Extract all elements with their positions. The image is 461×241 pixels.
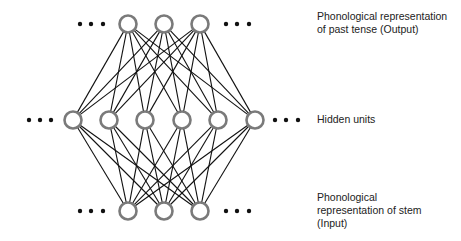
ellipsis-dot xyxy=(247,22,251,26)
output-unit-node xyxy=(192,16,209,33)
hidden-unit-node xyxy=(247,112,264,129)
connection-line xyxy=(202,32,217,111)
connection-line xyxy=(135,125,248,206)
ellipsis-dot xyxy=(296,118,300,122)
ellipsis-dot xyxy=(101,22,105,26)
input-layer-label: Phonological representation of stem (Inp… xyxy=(317,191,421,230)
output-layer-label: Phonological representation of past tens… xyxy=(317,10,447,36)
connection-line xyxy=(184,32,199,111)
ellipsis-dot xyxy=(38,118,42,122)
ellipsis-dot xyxy=(27,118,31,122)
ellipsis-dot xyxy=(89,209,93,213)
input-unit-node xyxy=(192,203,209,220)
connection-line xyxy=(79,30,158,114)
connection-line xyxy=(204,31,251,112)
ellipsis-dot xyxy=(49,118,53,122)
output-unit-node xyxy=(156,16,173,33)
ellipsis-dot xyxy=(78,22,82,26)
hidden-unit-node xyxy=(210,112,227,129)
connection-line xyxy=(77,31,124,112)
ellipsis-dot xyxy=(101,209,105,213)
connection-line xyxy=(134,126,212,205)
hidden-layer-label: Hidden units xyxy=(317,113,375,126)
ellipsis-dot xyxy=(224,22,228,26)
connection-line xyxy=(170,126,249,205)
ellipsis-dot xyxy=(273,118,277,122)
connection-line xyxy=(130,128,144,202)
connection-line xyxy=(111,128,127,202)
connection-line xyxy=(149,31,196,112)
connection-line xyxy=(77,127,123,203)
ellipsis-dot xyxy=(235,209,239,213)
ellipsis-dot xyxy=(235,22,239,26)
hidden-unit-node xyxy=(101,112,118,129)
ellipsis-dot xyxy=(224,209,228,213)
connection-line xyxy=(80,29,193,115)
connection-line xyxy=(204,127,250,203)
input-unit-node xyxy=(120,203,137,220)
hidden-unit-node xyxy=(174,112,191,129)
ellipsis-dot xyxy=(284,118,288,122)
input-unit-node xyxy=(156,203,173,220)
nodes xyxy=(65,16,264,220)
connection-line xyxy=(115,30,194,114)
hidden-unit-node xyxy=(137,112,154,129)
ellipsis-dot xyxy=(89,22,93,26)
ellipsis-dot xyxy=(247,209,251,213)
ellipsis-dot xyxy=(78,209,82,213)
hidden-unit-node xyxy=(65,112,82,129)
output-unit-node xyxy=(120,16,137,33)
